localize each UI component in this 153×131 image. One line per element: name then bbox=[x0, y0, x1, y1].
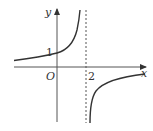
function-graph: y x O 1 2 bbox=[0, 0, 153, 131]
y-intercept-label: 1 bbox=[46, 46, 53, 59]
y-axis-label: y bbox=[44, 6, 52, 19]
x-axis-label: x bbox=[141, 67, 148, 80]
asymptote-x-label: 2 bbox=[88, 70, 95, 83]
origin-label: O bbox=[46, 70, 55, 83]
right-branch-curve bbox=[90, 74, 145, 123]
